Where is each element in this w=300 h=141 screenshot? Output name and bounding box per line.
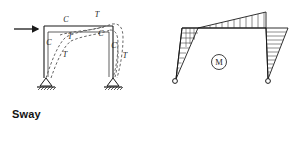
force-label-t-beam-right: T [95,10,100,19]
paper-background [0,0,300,141]
force-label-t-left-column-lower: T [63,50,68,59]
pin-left [173,79,178,84]
figure-caption: Sway [12,108,41,120]
force-label-t-beam-mid: T [68,32,73,41]
figure-svg: C T C T T C C T [0,0,300,141]
pin-right [266,79,271,84]
force-label-c-left-column: C [46,38,52,47]
moment-label-text: M [215,57,223,67]
force-label-c-right-column: C [111,41,117,50]
structural-figure: C T C T T C C T [0,0,300,141]
force-label-t-right-column-lower: T [123,51,128,60]
force-label-c-right-joint: C [98,29,104,38]
force-label-c-beam-left: C [63,15,69,24]
